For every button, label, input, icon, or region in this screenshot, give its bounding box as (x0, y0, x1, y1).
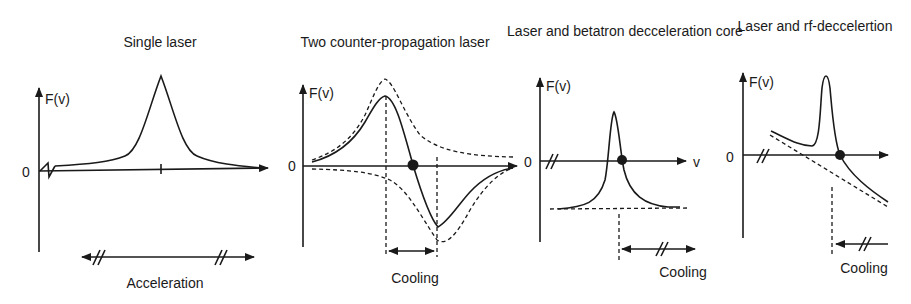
panel-rf-deccelertion: Laser and rf-deccelertion F(v) 0 Cooling (726, 18, 892, 276)
y-axis-label: F(v) (546, 78, 571, 94)
x-axis (39, 168, 268, 171)
range-caption: Cooling (659, 264, 706, 280)
origin-label: 0 (22, 164, 30, 180)
axis-break-icon (40, 163, 55, 177)
x-axis-label: v (693, 154, 700, 170)
y-axis-label: F(v) (45, 91, 70, 107)
force-curve (771, 76, 888, 202)
dashed-baseline (770, 135, 888, 207)
equilibrium-point (835, 150, 845, 160)
force-curve (55, 76, 262, 168)
origin-label: 0 (524, 154, 532, 170)
panel-title: Laser and betatron decceleration core (507, 23, 743, 39)
dashed-component-lower (312, 168, 513, 242)
range-caption: Cooling (391, 270, 438, 286)
panel-betatron-decceleration: Laser and betatron decceleration core F(… (507, 23, 743, 280)
panel-title: Single laser (123, 34, 196, 50)
y-axis-label: F(v) (309, 85, 334, 101)
origin-label: 0 (726, 149, 734, 165)
panel-title: Two counter-propagation laser (300, 34, 489, 50)
origin-label: 0 (288, 158, 296, 174)
panel-title: Laser and rf-deccelertion (738, 18, 893, 34)
panel-two-counter-propagation-laser: Two counter-propagation laser F(v) 0 Coo… (288, 34, 517, 286)
equilibrium-point (617, 155, 627, 165)
break-mark-icon (757, 149, 769, 163)
range-caption: Acceleration (126, 275, 203, 291)
equilibrium-point (408, 160, 419, 171)
figure-canvas: Single laser F(v) 0 Acceleration Two cou… (0, 0, 911, 304)
y-axis-label: F(v) (749, 74, 774, 90)
range-caption: Cooling (840, 260, 887, 276)
panel-single-laser: Single laser F(v) 0 Acceleration (22, 34, 268, 291)
